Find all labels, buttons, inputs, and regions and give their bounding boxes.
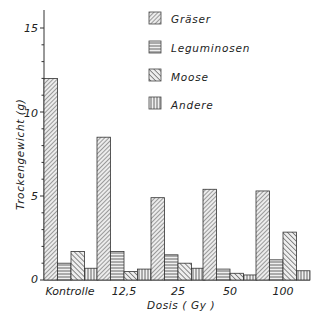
svg-text:Moose: Moose — [171, 71, 209, 83]
y-axis-title: Trockengewicht (g) — [14, 99, 26, 210]
legend-item-graeser: Gräser — [149, 12, 211, 25]
bar-graeser-4 — [256, 191, 270, 280]
leguminosen-swatch-icon — [149, 41, 161, 53]
svg-text:Andere: Andere — [170, 99, 214, 111]
bar-moose-3 — [230, 273, 244, 280]
bar-andere-1 — [138, 269, 152, 280]
bar-leguminosen-1 — [111, 251, 125, 280]
andere-swatch-icon — [149, 97, 161, 109]
moose-swatch-icon — [149, 69, 161, 81]
bar-graeser-0 — [44, 78, 58, 280]
bar-leguminosen-4 — [270, 260, 284, 280]
bar-leguminosen-0 — [58, 263, 72, 280]
bar-andere-3 — [244, 275, 258, 280]
legend-item-leguminosen: Leguminosen — [149, 41, 250, 54]
y-tick-0: 0 — [31, 273, 38, 286]
x-tick-12-5: 12,5 — [112, 285, 137, 298]
bar-andere-0 — [85, 268, 99, 280]
y-tick-10: 10 — [24, 107, 38, 120]
x-axis-title: Dosis ( Gy ) — [147, 299, 215, 311]
bar-moose-1 — [124, 272, 138, 280]
x-tick-25: 25 — [171, 285, 185, 298]
legend-item-moose: Moose — [149, 69, 209, 83]
legend: Gräser Leguminosen Moose Andere — [149, 12, 250, 111]
svg-text:Gräser: Gräser — [171, 13, 211, 25]
y-axis: 0 5 10 15 Trockengewicht (g) — [14, 10, 44, 286]
x-tick-kontrolle: Kontrolle — [46, 285, 95, 298]
bar-leguminosen-2 — [165, 255, 179, 280]
bar-moose-0 — [71, 251, 85, 280]
bar-graeser-1 — [97, 137, 111, 280]
legend-item-andere: Andere — [149, 97, 214, 111]
y-tick-5: 5 — [31, 190, 38, 203]
x-axis: Kontrolle 12,5 25 50 100 Dosis ( Gy ) — [44, 280, 310, 311]
bar-chart: 0 5 10 15 Trockengewicht (g) Kontrolle 1… — [0, 0, 315, 313]
bar-graeser-3 — [203, 189, 217, 280]
x-tick-100: 100 — [273, 285, 294, 298]
y-axis-ticks — [40, 28, 44, 280]
bar-moose-4 — [283, 232, 297, 280]
y-tick-15: 15 — [24, 22, 38, 35]
graeser-swatch-icon — [149, 12, 161, 24]
bar-andere-4 — [297, 271, 311, 280]
bar-moose-2 — [178, 263, 192, 280]
x-tick-50: 50 — [223, 285, 237, 298]
bar-graeser-2 — [151, 198, 165, 280]
bar-leguminosen-3 — [217, 269, 231, 280]
svg-text:Leguminosen: Leguminosen — [171, 42, 250, 54]
